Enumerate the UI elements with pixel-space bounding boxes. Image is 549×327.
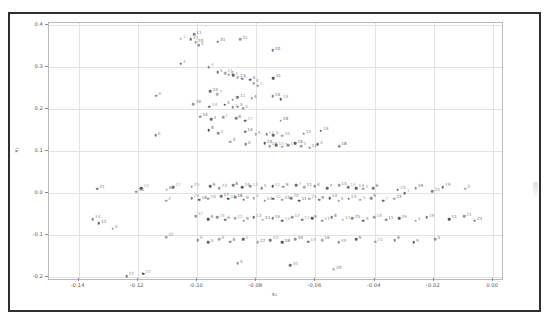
scatter-point[interactable] [321,219,324,222]
scatter-point[interactable] [326,187,329,190]
scatter-point[interactable] [281,135,284,138]
scatter-point[interactable] [220,195,223,198]
scatter-point[interactable] [241,186,244,189]
scatter-point[interactable] [362,219,365,222]
scatter-point[interactable] [287,144,290,147]
scatter-point[interactable] [194,41,197,44]
scatter-point[interactable] [192,103,195,106]
scatter-point[interactable] [341,219,344,222]
scatter-point[interactable] [260,187,263,190]
scatter-point[interactable] [190,185,193,188]
scatter-point[interactable] [231,99,234,102]
scatter-point[interactable] [243,219,246,222]
scatter-point[interactable] [216,71,219,74]
scatter-point[interactable] [396,188,399,191]
scatter-point[interactable] [279,119,282,122]
scatter-point[interactable] [97,222,100,225]
scatter-point[interactable] [165,199,168,202]
scatter-point[interactable] [227,73,230,76]
scatter-point[interactable] [347,186,350,189]
scatter-point[interactable] [370,197,373,200]
scatter-point[interactable] [414,219,417,222]
scatter-point[interactable] [337,241,340,244]
scatter-point[interactable] [197,44,200,47]
scatter-point[interactable] [166,188,169,191]
scatter-point[interactable] [179,37,182,40]
scatter-point[interactable] [347,198,350,201]
scatter-point[interactable] [142,272,145,275]
scatter-point[interactable] [431,190,434,193]
scatter-point[interactable] [434,238,437,241]
scatter-point[interactable] [208,66,211,69]
scatter-point[interactable] [314,185,317,188]
scatter-point[interactable] [372,187,375,190]
scatter-point[interactable] [179,62,182,65]
scatter-point[interactable] [196,239,199,242]
scatter-point[interactable] [194,215,197,218]
scatter-point[interactable] [135,190,138,193]
scatter-point[interactable] [190,197,193,200]
scatter-point[interactable] [199,115,202,118]
scatter-point[interactable] [281,241,284,244]
scatter-point[interactable] [111,227,114,230]
scatter-point[interactable] [229,240,232,243]
scatter-point[interactable] [207,198,210,201]
scatter-point[interactable] [210,118,213,121]
scatter-point[interactable] [374,240,377,243]
scatter-point[interactable] [269,239,272,242]
scatter-point[interactable] [237,76,240,79]
scatter-point[interactable] [272,198,275,201]
scatter-point[interactable] [290,197,293,200]
scatter-point[interactable] [218,187,221,190]
scatter-point[interactable] [253,82,256,85]
scatter-point[interactable] [234,196,237,199]
scatter-point[interactable] [96,187,99,190]
scatter-point[interactable] [275,144,278,147]
scatter-point[interactable] [241,78,244,81]
scatter-point[interactable] [216,41,219,44]
scatter-point[interactable] [224,72,227,75]
scatter-point[interactable] [234,217,237,220]
scatter-point[interactable] [291,216,294,219]
scatter-point[interactable] [272,134,275,137]
scatter-point[interactable] [243,198,246,201]
scatter-point[interactable] [256,84,259,87]
scatter-point[interactable] [231,106,234,109]
scatter-point[interactable] [249,185,252,188]
scatter-point[interactable] [189,38,192,41]
scatter-point[interactable] [216,216,219,219]
scatter-point[interactable] [249,78,252,81]
scatter-point[interactable] [307,240,310,243]
scatter-point[interactable] [263,142,266,145]
scatter-point[interactable] [229,140,232,143]
scatter-point[interactable] [207,218,210,221]
scatter-point[interactable] [289,264,292,267]
scatter-plot-area[interactable]: 1113110431311014111411114413162471114181… [48,22,503,280]
scatter-point[interactable] [382,199,385,202]
scatter-point[interactable] [271,217,274,220]
scatter-point[interactable] [425,216,428,219]
scatter-point[interactable] [242,107,245,110]
scatter-point[interactable] [355,187,358,190]
scatter-point[interactable] [263,199,266,202]
scatter-point[interactable] [294,238,297,241]
scatter-point[interactable] [321,239,324,242]
scatter-point[interactable] [265,133,268,136]
scatter-point[interactable] [311,217,314,220]
scatter-point[interactable] [253,197,256,200]
scatter-point[interactable] [404,192,407,195]
scatter-point[interactable] [209,185,212,188]
scatter-point[interactable] [237,105,240,108]
scatter-point[interactable] [294,142,297,145]
scatter-point[interactable] [208,105,211,108]
scatter-point[interactable] [271,185,274,188]
scatter-point[interactable] [295,184,298,187]
scatter-point[interactable] [237,262,240,265]
scatter-point[interactable] [448,218,451,221]
scatter-point[interactable] [414,187,417,190]
scatter-point[interactable] [373,216,376,219]
scatter-point[interactable] [281,198,284,201]
scatter-point[interactable] [328,197,331,200]
scatter-point[interactable] [282,185,285,188]
scatter-point[interactable] [317,143,320,146]
